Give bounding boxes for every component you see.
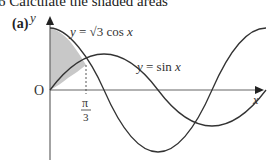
y-axis-arrow-icon	[46, 16, 54, 25]
tick-numerator: π	[82, 96, 88, 110]
graph: y O x π 3 y = √3 cos x y = sin x	[0, 0, 268, 165]
y-axis-label: y	[28, 10, 36, 25]
tick-denominator: 3	[83, 111, 89, 123]
x-axis-label: x	[252, 93, 259, 107]
curve-label-sin: y = sin x	[135, 59, 181, 74]
curve-label-cos: y = √3 cos x	[68, 24, 133, 39]
origin-label: O	[34, 83, 44, 98]
